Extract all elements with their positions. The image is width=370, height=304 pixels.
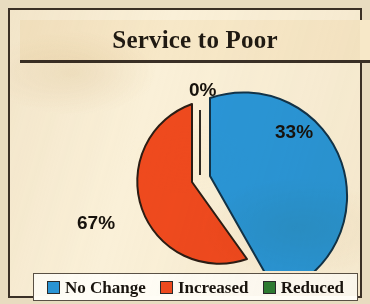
page-title: Service to Poor: [112, 27, 277, 54]
legend-item-no-change[interactable]: No Change: [47, 279, 146, 296]
data-label-increased: 67%: [77, 213, 115, 232]
plot-area: 0% 33% 67%: [20, 66, 370, 271]
legend-swatch-icon-no-change: [47, 281, 60, 294]
legend-label-increased: Increased: [178, 279, 249, 296]
legend-label-reduced: Reduced: [281, 279, 344, 296]
chart-figure: Service to Poor 0% 33% 67% No Change: [0, 0, 370, 304]
data-label-no-change: 33%: [275, 122, 313, 141]
data-label-reduced: 0%: [189, 80, 216, 99]
legend-label-no-change: No Change: [65, 279, 146, 296]
legend-item-increased[interactable]: Increased: [160, 279, 249, 296]
chart-legend: No Change Increased Reduced: [33, 273, 358, 301]
chart-title-bar: Service to Poor: [20, 20, 370, 63]
legend-item-reduced[interactable]: Reduced: [263, 279, 344, 296]
figure-frame: Service to Poor 0% 33% 67% No Change: [8, 8, 362, 298]
legend-swatch-icon-reduced: [263, 281, 276, 294]
legend-swatch-icon-increased: [160, 281, 173, 294]
